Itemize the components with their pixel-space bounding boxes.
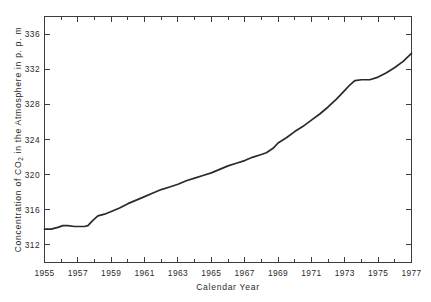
x-tick-label: 1975 <box>368 268 388 278</box>
y-tick-label: 324 <box>25 135 40 145</box>
chart-canvas: 1955195719591961196319651967196919711973… <box>0 0 431 302</box>
co2-keeling-curve-figure: 1955195719591961196319651967196919711973… <box>0 0 431 302</box>
y-axis-title: Concentration of CO2 in the Atmosphere i… <box>13 27 24 253</box>
x-tick-label: 1961 <box>134 268 154 278</box>
y-tick-label: 316 <box>25 205 40 215</box>
x-tick-label: 1969 <box>268 268 288 278</box>
y-tick-label: 332 <box>25 64 40 74</box>
x-tick-label: 1967 <box>235 268 255 278</box>
x-axis-title: Calendar Year <box>196 282 260 292</box>
x-tick-label: 1977 <box>401 268 421 278</box>
x-tick-label: 1973 <box>335 268 355 278</box>
x-tick-label: 1957 <box>68 268 88 278</box>
x-tick-label: 1963 <box>168 268 188 278</box>
y-tick-label: 312 <box>25 240 40 250</box>
co2-data-line <box>45 53 412 229</box>
x-tick-label: 1965 <box>201 268 221 278</box>
y-axis-title-tail: in the Atmosphere in p. p. m <box>13 27 23 157</box>
x-tick-label: 1955 <box>34 268 54 278</box>
y-axis-title-main: Concentration of CO <box>13 161 23 253</box>
y-tick-label: 320 <box>25 170 40 180</box>
x-tick-label: 1971 <box>301 268 321 278</box>
plot-frame <box>45 17 412 263</box>
y-tick-label: 336 <box>25 29 40 39</box>
y-tick-label: 328 <box>25 99 40 109</box>
x-tick-label: 1959 <box>101 268 121 278</box>
